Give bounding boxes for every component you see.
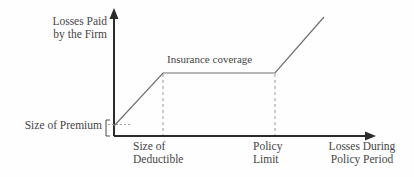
y-axis-arrowhead	[110, 8, 119, 19]
insurance-coverage-chart: Losses Paid by the Firm Size of Premium …	[0, 0, 414, 177]
size-of-deductible-label: Size of Deductible	[133, 140, 213, 166]
size-of-premium-label: Size of Premium	[6, 119, 102, 132]
y-axis-label: Losses Paid by the Firm	[33, 15, 107, 41]
premium-bracket	[106, 120, 110, 136]
x-axis-label: Losses During Policy Period	[313, 140, 411, 166]
insurance-coverage-annotation: Insurance coverage	[167, 53, 287, 66]
payout-function-line	[114, 17, 324, 126]
